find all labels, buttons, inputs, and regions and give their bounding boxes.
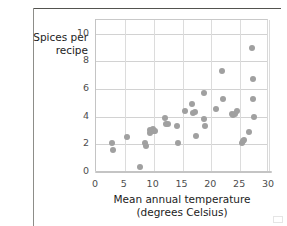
gridline-vertical [125,20,126,171]
x-axis-line [95,171,272,173]
y-tick-label: 8 [63,55,89,65]
data-point [234,108,240,114]
gridline-horizontal [96,61,267,62]
gridline-vertical [211,20,212,171]
x-tick-label: 5 [112,179,136,189]
gridline-horizontal [96,34,267,35]
x-tick-label: 10 [141,179,165,189]
y-tick-label: 4 [63,111,89,121]
data-point [201,116,207,122]
gridline-vertical [240,20,241,171]
data-point [124,134,130,140]
gridline-vertical [183,20,184,171]
data-point [251,114,257,120]
x-tick-label: 15 [170,179,194,189]
data-point [220,96,226,102]
x-axis-label-line-1: Mean annual temperature [88,193,276,206]
scatter-plot-figure: Spices per recipe 0246810 051015202530 M… [0,0,287,226]
x-tick-label: 25 [227,179,251,189]
data-point [246,129,252,135]
data-point [174,123,180,129]
data-point [193,133,199,139]
data-point [143,143,149,149]
y-tick-label: 0 [63,166,89,176]
gridline-horizontal [96,117,267,118]
page-top-rule [33,8,281,9]
x-tick-label: 20 [198,179,222,189]
data-point [219,68,225,74]
data-point [241,137,247,143]
x-tick-label: 0 [83,179,107,189]
data-point [192,109,198,115]
plot-area [95,19,268,171]
data-point [250,76,256,82]
data-point [182,108,188,114]
data-point [202,123,208,129]
page-corner-mark [273,216,283,223]
data-point [249,45,255,51]
data-point [165,121,171,127]
data-point [175,140,181,146]
data-point [189,101,195,107]
data-point [152,128,158,134]
x-axis-label: Mean annual temperature (degrees Celsius… [88,193,276,219]
y-axis-line [95,19,96,171]
data-point [201,90,207,96]
data-point [213,106,219,112]
y-tick-label: 6 [63,83,89,93]
data-point [137,164,143,170]
gridline-horizontal [96,89,267,90]
y-tick-label: 10 [63,28,89,38]
data-point [250,96,256,102]
gridline-vertical [154,20,155,171]
x-axis-label-line-2: (degrees Celsius) [88,206,276,219]
x-tick-label: 30 [256,179,280,189]
y-tick-label: 2 [63,138,89,148]
data-point [110,147,116,153]
gridline-vertical [269,20,270,171]
